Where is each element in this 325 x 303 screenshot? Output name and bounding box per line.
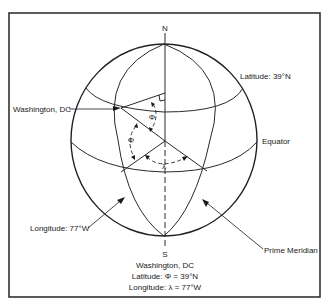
caption-line-2: Latitude: Φ = 39°N: [132, 272, 199, 281]
lambda-arc: [147, 157, 185, 164]
phi-lower-arrowhead-bottom: [131, 155, 135, 160]
caption-line-1: Washington, DC: [136, 261, 194, 270]
radius-to-prime-equator: [165, 141, 207, 171]
radius-to-77w-equator: [121, 141, 165, 172]
washington-pointer-arrowhead: [113, 106, 121, 111]
longitude-label: Longitude: 77°W: [30, 224, 90, 233]
washington-label: Washington, DC: [13, 105, 71, 114]
right-angle-marker: [159, 95, 165, 101]
equator-back: [71, 135, 257, 142]
north-label: N: [162, 24, 168, 33]
washington-to-axis: [121, 93, 165, 108]
prime-meridian-pointer-line: [207, 203, 263, 249]
lambda-arrowhead-right: [182, 156, 188, 161]
meridian-77w: [114, 44, 164, 236]
south-label: S: [162, 250, 167, 259]
latitude-label: Latitude: 39°N: [240, 72, 291, 81]
lambda-label: λ: [162, 162, 166, 171]
longitude-pointer-line: [88, 202, 119, 228]
prime-meridian-pointer-arrowhead: [202, 199, 209, 207]
equator-label: Equator: [262, 137, 290, 146]
prime-meridian-line: [164, 44, 215, 236]
caption-line-3: Longitude: λ = 77°W: [129, 283, 202, 292]
globe-diagram: Φ Φ λ N S Washington, DC Latitude: 39°N …: [0, 0, 325, 303]
phi-upper-label: Φ: [149, 113, 155, 122]
prime-meridian-label: Prime Meridian: [264, 246, 318, 255]
phi-lower-label: Φ: [128, 136, 134, 145]
